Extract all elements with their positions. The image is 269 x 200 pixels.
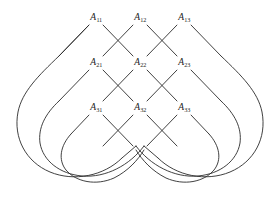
loop-left-outer xyxy=(17,56,122,177)
matrix-entry-a31: A31 xyxy=(89,102,104,114)
matrix-entry-a12: A12 xyxy=(133,12,148,24)
matrix-entry-a21: A21 xyxy=(89,57,104,69)
seg-a33-out xyxy=(191,115,209,134)
matrix-entry-a13: A13 xyxy=(177,12,192,24)
figure-container: A11 A12 A13 A21 A22 A23 A31 A32 A33 xyxy=(0,0,269,200)
diagonal-segments-down-right xyxy=(59,25,221,146)
seg-a11-out-left xyxy=(59,25,89,56)
matrix-entry-a33: A33 xyxy=(177,102,192,114)
left-wrap-loops xyxy=(17,56,144,182)
cross-right-up xyxy=(144,146,158,158)
matrix-entry-a22: A22 xyxy=(133,57,148,69)
seg-a23-out xyxy=(191,70,221,101)
seg-a21-out-left xyxy=(59,70,89,101)
matrix-entry-a23: A23 xyxy=(177,57,192,69)
seg-a31-out-left xyxy=(71,115,89,134)
right-wrap-loops xyxy=(136,56,263,182)
diagram-canvas xyxy=(0,0,269,200)
seg-a13-out xyxy=(191,25,221,56)
matrix-entry-a11: A11 xyxy=(89,12,103,24)
cross-left-up xyxy=(122,146,136,158)
matrix-entry-a32: A32 xyxy=(133,102,148,114)
loop-right-outer xyxy=(158,56,263,177)
